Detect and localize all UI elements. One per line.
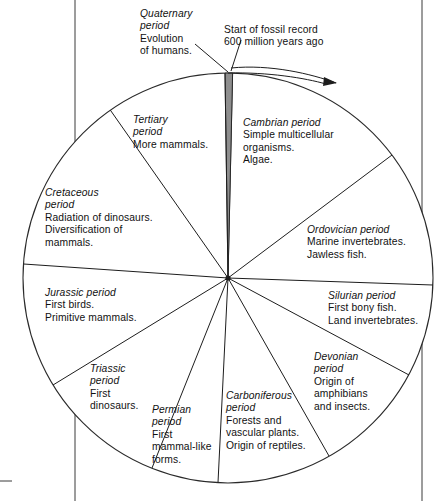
label-quaternary: Quaternary period Evolution of humans. <box>140 8 193 58</box>
label-carboniferous-title2: period <box>226 402 306 414</box>
label-fossil-start: Start of fossil record 600 million years… <box>224 24 323 49</box>
label-permian-title2: period <box>152 416 212 428</box>
label-silurian-line1: First bony fish. <box>328 302 418 314</box>
label-devonian-line3: and insects. <box>314 401 370 413</box>
label-cretaceous-line1: Radiation of dinosaurs. <box>45 212 153 224</box>
label-ordovician-line2: Jawless fish. <box>307 249 406 261</box>
label-triassic-line2: dinosaurs. <box>90 400 139 412</box>
label-devonian-line2: amphibians <box>314 388 370 400</box>
pie-center-dot <box>225 275 230 280</box>
label-cretaceous-line3: mammals. <box>45 237 153 249</box>
label-permian: Permian period First mammal-like forms. <box>152 404 212 466</box>
label-silurian-line2: Land invertebrates. <box>328 315 418 327</box>
label-triassic-title1: Triassic <box>90 363 139 375</box>
label-quaternary-title1: Quaternary <box>140 8 193 20</box>
label-silurian-title1: Silurian period <box>328 290 418 302</box>
label-devonian-line1: Origin of <box>314 376 370 388</box>
label-fossil-start-line1: Start of fossil record <box>224 24 323 36</box>
label-devonian: Devonian period Origin of amphibians and… <box>314 351 370 413</box>
label-permian-title1: Permian <box>152 404 212 416</box>
label-cambrian-line2: organisms. <box>243 142 334 154</box>
label-quaternary-title2: period <box>140 20 193 32</box>
time-direction-arrowhead <box>323 77 337 86</box>
label-ordovician-title1: Ordovician period <box>307 224 406 236</box>
label-tertiary-title1: Tertiary <box>133 114 208 126</box>
label-ordovician: Ordovician period Marine invertebrates. … <box>307 224 406 261</box>
label-permian-line3: forms. <box>152 454 212 466</box>
label-jurassic-line1: First birds. <box>45 299 137 311</box>
label-devonian-title1: Devonian <box>314 351 370 363</box>
label-quaternary-line2: of humans. <box>140 45 193 57</box>
label-cambrian-line3: Algae. <box>243 154 334 166</box>
label-carboniferous-line1: Forests and <box>226 415 306 427</box>
label-cretaceous: Cretaceous period Radiation of dinosaurs… <box>45 187 153 249</box>
label-tertiary-line1: More mammals. <box>133 139 208 151</box>
label-carboniferous-line3: Origin of reptiles. <box>226 440 306 452</box>
label-cretaceous-title2: period <box>45 199 153 211</box>
label-cambrian: Cambrian period Simple multicellular org… <box>243 117 334 167</box>
label-permian-line2: mammal-like <box>152 441 212 453</box>
label-carboniferous: Carboniferous period Forests and vascula… <box>226 390 306 452</box>
label-jurassic: Jurassic period First birds. Primitive m… <box>45 287 137 324</box>
label-carboniferous-line2: vascular plants. <box>226 427 306 439</box>
label-cretaceous-title1: Cretaceous <box>45 187 153 199</box>
label-quaternary-line1: Evolution <box>140 33 193 45</box>
label-permian-line1: First <box>152 429 212 441</box>
label-tertiary-title2: period <box>133 126 208 138</box>
label-carboniferous-title1: Carboniferous <box>226 390 306 402</box>
label-silurian: Silurian period First bony fish. Land in… <box>328 290 418 327</box>
label-jurassic-title1: Jurassic period <box>45 287 137 299</box>
label-cambrian-line1: Simple multicellular <box>243 129 334 141</box>
label-triassic-line1: First <box>90 388 139 400</box>
label-triassic-title2: period <box>90 375 139 387</box>
label-jurassic-line2: Primitive mammals. <box>45 312 137 324</box>
label-triassic: Triassic period First dinosaurs. <box>90 363 139 413</box>
label-ordovician-line1: Marine invertebrates. <box>307 236 406 248</box>
label-fossil-start-line2: 600 million years ago <box>224 36 323 48</box>
label-cambrian-title1: Cambrian period <box>243 117 334 129</box>
label-devonian-title2: period <box>314 363 370 375</box>
label-tertiary: Tertiary period More mammals. <box>133 114 208 151</box>
fossil-record-pie-diagram: Quaternary period Evolution of humans. S… <box>0 0 438 501</box>
label-cretaceous-line2: Diversification of <box>45 224 153 236</box>
